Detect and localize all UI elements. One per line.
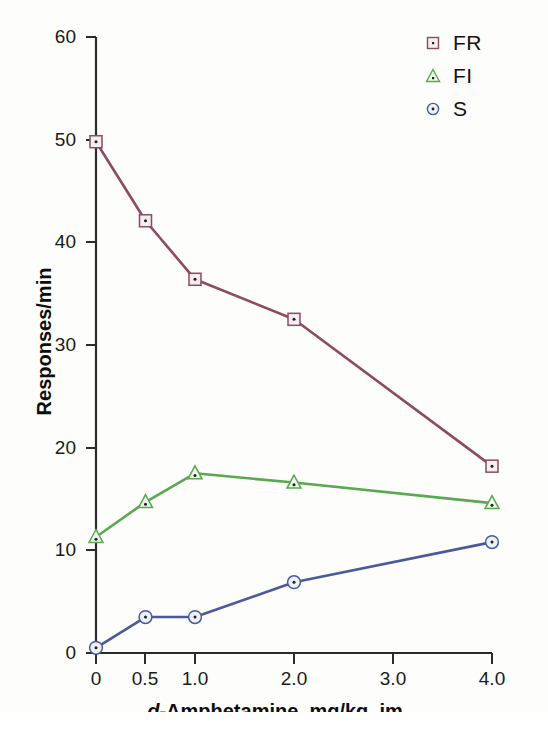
data-point-fr-4[interactable] bbox=[486, 460, 498, 472]
data-point-fi-1[interactable] bbox=[139, 495, 153, 508]
data-point-s-0[interactable] bbox=[90, 641, 103, 654]
series-line-fr bbox=[96, 142, 492, 466]
y-tick-label-50: 50 bbox=[34, 129, 76, 151]
figure-container: 60 50 40 30 20 10 0 0 0.5 1.0 2.0 3.0 4.… bbox=[0, 0, 548, 751]
data-point-fi-0[interactable] bbox=[89, 529, 103, 542]
legend-label-fi: FI bbox=[453, 64, 472, 88]
series-fr bbox=[90, 136, 498, 472]
series-fi bbox=[89, 466, 499, 543]
x-tick-label-3.0: 3.0 bbox=[366, 668, 420, 690]
x-tick-label-2.0: 2.0 bbox=[267, 668, 321, 690]
x-tick-label-0: 0 bbox=[69, 668, 123, 690]
data-point-fr-3[interactable] bbox=[288, 313, 300, 325]
triangle-dot-icon bbox=[422, 65, 444, 87]
y-tick-label-60: 60 bbox=[34, 26, 76, 48]
y-tick-label-0: 0 bbox=[34, 642, 76, 664]
data-point-fi-2[interactable] bbox=[188, 466, 202, 479]
x-tick-label-4.0: 4.0 bbox=[465, 668, 519, 690]
series-s bbox=[90, 536, 499, 655]
legend-label-s: S bbox=[453, 97, 467, 121]
data-series-layer bbox=[89, 136, 499, 655]
data-point-fr-2[interactable] bbox=[189, 273, 201, 285]
chart-legend: FR FI S bbox=[422, 26, 542, 125]
legend-item-s[interactable]: S bbox=[422, 92, 542, 125]
data-point-s-1[interactable] bbox=[139, 611, 152, 624]
y-axis-ticks bbox=[86, 37, 96, 653]
data-point-s-3[interactable] bbox=[288, 576, 301, 589]
circle-dot-icon bbox=[422, 98, 444, 120]
series-line-s bbox=[96, 542, 492, 648]
x-axis-ticks bbox=[96, 653, 492, 664]
legend-item-fi[interactable]: FI bbox=[422, 59, 542, 92]
data-point-s-4[interactable] bbox=[486, 536, 499, 549]
caption-strip bbox=[0, 712, 548, 751]
y-axis-title: Responses/min bbox=[33, 222, 56, 462]
data-point-fr-1[interactable] bbox=[140, 215, 152, 227]
x-tick-label-0.5: 0.5 bbox=[118, 668, 172, 690]
square-dot-icon bbox=[422, 32, 444, 54]
y-tick-label-10: 10 bbox=[34, 539, 76, 561]
legend-item-fr[interactable]: FR bbox=[422, 26, 542, 59]
data-point-fr-0[interactable] bbox=[90, 136, 102, 148]
axis-lines bbox=[96, 37, 492, 653]
x-tick-label-1.0: 1.0 bbox=[168, 668, 222, 690]
plot-area: 60 50 40 30 20 10 0 0 0.5 1.0 2.0 3.0 4.… bbox=[0, 0, 548, 700]
legend-label-fr: FR bbox=[453, 31, 482, 55]
data-point-s-2[interactable] bbox=[189, 611, 202, 624]
